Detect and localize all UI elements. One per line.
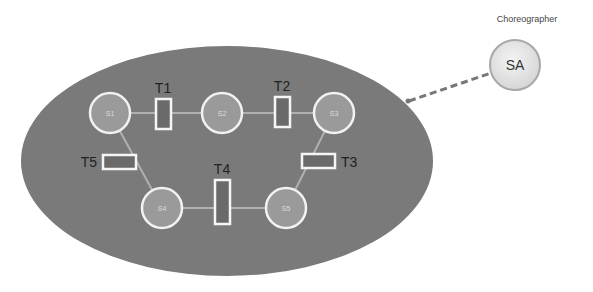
choreographer-label: SA: [506, 57, 525, 73]
choreographer-title: Choreographer: [497, 14, 558, 24]
transition-t1[interactable]: T1: [155, 80, 172, 129]
state-label: S1: [106, 110, 115, 117]
transition-t5[interactable]: T5: [81, 154, 136, 170]
transition-label: T3: [341, 154, 358, 170]
choreographer-connector: [409, 73, 491, 101]
state-label: S2: [218, 110, 227, 117]
transition-t3[interactable]: T3: [302, 154, 358, 170]
state-s5[interactable]: S5: [266, 188, 306, 228]
transition-label: T2: [274, 78, 291, 94]
transition-t4[interactable]: T4: [214, 161, 231, 224]
state-label: S5: [282, 205, 291, 212]
state-label: S3: [330, 110, 339, 117]
transition-label: T5: [81, 154, 98, 170]
choreographer-node[interactable]: SA: [490, 40, 540, 90]
state-s1[interactable]: S1: [90, 93, 130, 133]
transition-label: T4: [214, 161, 231, 177]
transition-t2[interactable]: T2: [274, 78, 291, 127]
connector-endpoint: [406, 99, 411, 104]
state-s2[interactable]: S2: [202, 93, 242, 133]
petri-net-diagram: S1 S2 S3 S4 S5 T1 T2 T3 T4 T5 Choreograp…: [0, 0, 593, 292]
state-s3[interactable]: S3: [314, 93, 354, 133]
transition-label: T1: [155, 80, 172, 96]
state-label: S4: [158, 205, 167, 212]
state-s4[interactable]: S4: [142, 188, 182, 228]
